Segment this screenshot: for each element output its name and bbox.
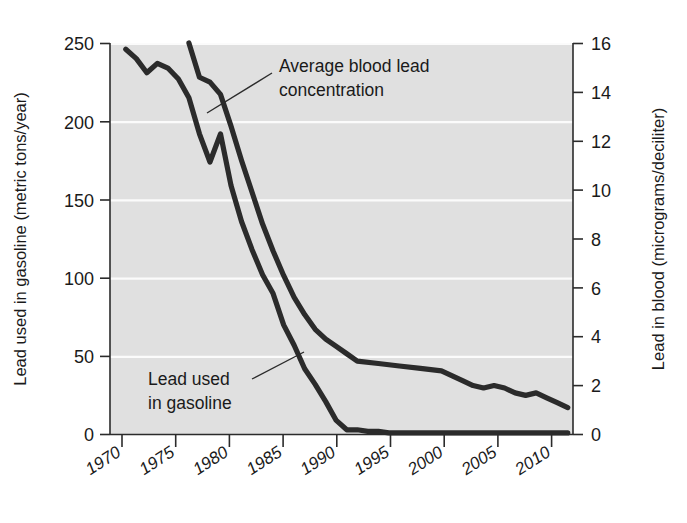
y2tick-label-10: 10: [591, 181, 611, 201]
y2tick-label-12: 12: [591, 132, 611, 152]
y2tick-label-14: 14: [591, 83, 611, 103]
blood-lead-annotation-line1: Average blood lead: [279, 56, 430, 76]
left-axis-ticks: [100, 44, 110, 435]
xtick-label-1995: 1995: [351, 442, 394, 479]
xtick-label-1990: 1990: [297, 442, 340, 479]
y2tick-label-8: 8: [591, 230, 601, 250]
ytick-label-0: 0: [84, 425, 94, 445]
ytick-label-100: 100: [64, 269, 94, 289]
xtick-label-1980: 1980: [190, 442, 233, 479]
chart-canvas: 250 200 150 100 50 0 16 14 12 10 8 6 4 2…: [0, 0, 687, 523]
y2tick-label-2: 2: [591, 376, 601, 396]
xtick-label-1970: 1970: [82, 442, 125, 479]
right-axis-ticks: [573, 44, 583, 435]
lead-exposure-chart-figure: 250 200 150 100 50 0 16 14 12 10 8 6 4 2…: [0, 0, 687, 523]
y2tick-label-0: 0: [591, 425, 601, 445]
xtick-label-2005: 2005: [457, 442, 500, 479]
y2tick-label-4: 4: [591, 327, 601, 347]
gasoline-annotation-line2: in gasoline: [148, 393, 232, 413]
ytick-label-250: 250: [64, 34, 94, 54]
right-axis-title: Lead in blood (micrograms/deciliter): [649, 108, 667, 370]
y2tick-label-16: 16: [591, 34, 611, 54]
xtick-label-2010: 2010: [511, 442, 554, 479]
blood-lead-annotation-line2: concentration: [279, 80, 384, 100]
y2tick-label-6: 6: [591, 279, 601, 299]
xtick-label-1985: 1985: [243, 442, 286, 479]
left-axis-title: Lead used in gasoline (metric tons/year): [11, 92, 29, 386]
ytick-label-200: 200: [64, 113, 94, 133]
xtick-label-1975: 1975: [136, 442, 179, 479]
gasoline-annotation-line1: Lead used: [148, 369, 230, 389]
ytick-label-50: 50: [74, 347, 94, 367]
ytick-label-150: 150: [64, 191, 94, 211]
xtick-label-2000: 2000: [403, 442, 446, 479]
